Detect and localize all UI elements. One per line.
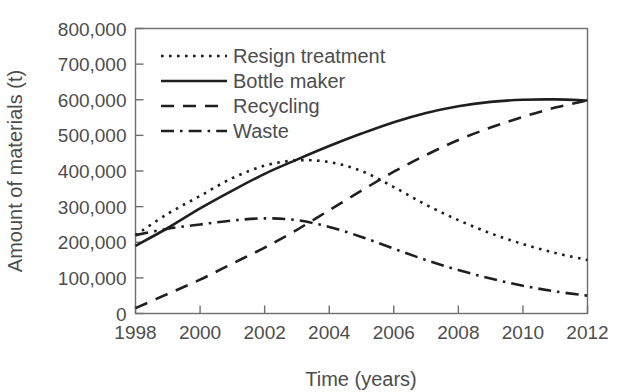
x-tick-label: 2012 (566, 322, 608, 343)
x-tick-label: 2006 (373, 322, 415, 343)
y-tick-label: 200,000 (58, 232, 127, 253)
x-tick-label: 1998 (114, 322, 156, 343)
x-tick-label: 2008 (437, 322, 479, 343)
y-tick-label: 500,000 (58, 125, 127, 146)
y-tick-label: 300,000 (58, 197, 127, 218)
x-tick-label: 2000 (179, 322, 221, 343)
y-tick-label: 800,000 (58, 19, 127, 40)
y-tick-label: 700,000 (58, 54, 127, 75)
line-chart: 0100,000200,000300,000400,000500,000600,… (0, 0, 627, 392)
x-tick-label: 2010 (502, 322, 544, 343)
y-tick-label: 400,000 (58, 161, 127, 182)
y-tick-label: 600,000 (58, 90, 127, 111)
legend-label: Waste (233, 120, 289, 142)
legend-label: Resign treatment (233, 45, 386, 67)
y-axis-title: Amount of materials (t) (4, 70, 26, 272)
y-tick-label: 100,000 (58, 268, 127, 289)
legend-label: Recycling (233, 95, 320, 117)
x-tick-label: 2002 (244, 322, 286, 343)
legend-label: Bottle maker (233, 70, 346, 92)
x-tick-label: 2004 (308, 322, 351, 343)
chart-canvas: 0100,000200,000300,000400,000500,000600,… (0, 0, 627, 392)
x-axis-title: Time (years) (305, 368, 416, 390)
